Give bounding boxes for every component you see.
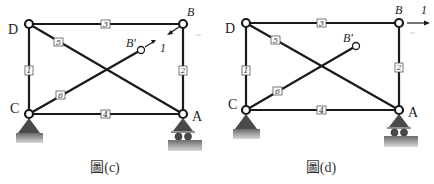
pin-support-c: [233, 114, 260, 139]
joint-label-b-prime: B': [343, 31, 353, 45]
joint-label-b: B: [187, 5, 195, 19]
joint-label-b-prime: B': [126, 36, 136, 50]
joint-c: [242, 106, 250, 114]
load-label: 1: [421, 3, 427, 17]
member-label-1: 1: [25, 66, 33, 75]
svg-text:6: 6: [275, 87, 280, 96]
figure-c: 1 2 3 4 5 6 D B C A B' 1 圖(c): [8, 5, 203, 176]
member-label-5: 5: [54, 38, 63, 47]
joint-label-b: B: [395, 3, 403, 17]
joint-label-a: A: [192, 109, 203, 124]
svg-text:6: 6: [58, 91, 63, 100]
svg-text:2: 2: [179, 66, 185, 75]
joint-d: [242, 19, 250, 27]
joint-b-prime: [138, 47, 145, 54]
joint-b: [395, 19, 403, 27]
truss-diagrams: 1 2 3 4 5 6 D B C A B' 1 圖(c): [0, 0, 434, 184]
svg-text:1: 1: [243, 66, 248, 75]
joint-label-c: C: [10, 101, 19, 116]
svg-text:4: 4: [318, 106, 324, 115]
svg-text:2: 2: [395, 63, 401, 72]
svg-text:5: 5: [273, 36, 278, 45]
joint-a: [179, 110, 187, 118]
svg-text:3: 3: [103, 20, 108, 29]
svg-text:3: 3: [319, 19, 324, 28]
joint-b-prime: [353, 43, 360, 50]
member-label-6: 6: [56, 91, 65, 100]
member-label-2: 2: [395, 63, 403, 72]
load-arrow-to-b: [167, 27, 179, 35]
svg-text:5: 5: [56, 38, 61, 47]
svg-text:4: 4: [102, 110, 108, 119]
joint-c: [25, 110, 33, 118]
load-arrow-horizontal: [407, 21, 430, 26]
figure-caption-d: 圖(d): [306, 160, 337, 176]
joint-a: [395, 106, 403, 114]
member-label-4: 4: [317, 106, 326, 115]
member-label-4: 4: [101, 110, 110, 119]
joint-label-a: A: [408, 105, 419, 120]
member-label-5: 5: [271, 36, 280, 45]
joint-d: [25, 20, 33, 28]
pin-support-c: [16, 118, 43, 143]
svg-text:1: 1: [26, 66, 31, 75]
member-6: [29, 50, 141, 114]
joint-b: [179, 20, 187, 28]
member-label-2: 2: [179, 66, 187, 75]
member-label-3: 3: [317, 19, 326, 28]
load-arrow-from-b-prime: [145, 40, 156, 47]
member-label-3: 3: [101, 20, 110, 29]
joint-label-d: D: [8, 22, 18, 37]
figure-caption-c: 圖(c): [90, 160, 120, 176]
joint-label-c: C: [228, 97, 237, 112]
load-label: 1: [160, 41, 166, 55]
member-6: [246, 46, 356, 110]
member-label-1: 1: [242, 66, 250, 75]
figure-d: 1 2 3 4 5 6 D B C A B' 1 圖(d): [225, 3, 430, 176]
joint-label-d: D: [225, 21, 235, 36]
member-label-6: 6: [273, 87, 282, 96]
